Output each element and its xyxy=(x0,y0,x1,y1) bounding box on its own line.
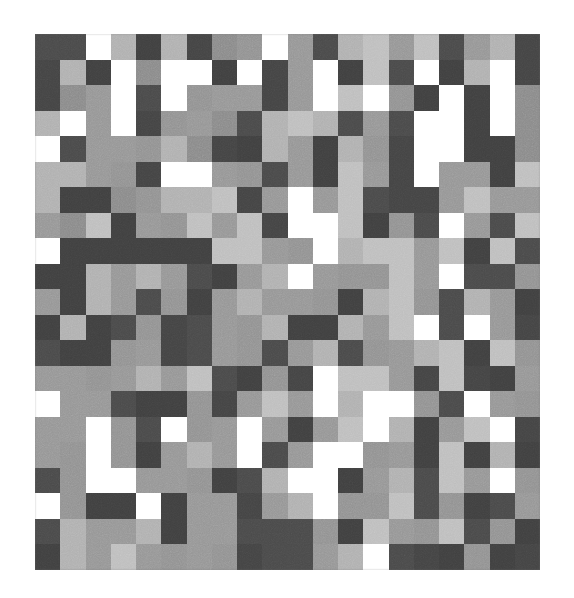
heatmap-cell xyxy=(313,162,338,188)
heatmap-cell xyxy=(187,417,212,443)
heatmap-cell xyxy=(35,264,60,290)
heatmap-cell xyxy=(237,417,262,443)
heatmap-cell xyxy=(389,136,414,162)
heatmap-cell xyxy=(187,34,212,60)
heatmap-cell xyxy=(288,315,313,341)
heatmap-cell xyxy=(111,136,136,162)
heatmap-cell xyxy=(414,315,439,341)
heatmap-cell xyxy=(363,468,388,494)
heatmap-cell xyxy=(212,315,237,341)
heatmap-cell xyxy=(389,162,414,188)
heatmap-cell xyxy=(86,85,111,111)
heatmap-cell xyxy=(313,238,338,264)
heatmap-cell xyxy=(212,519,237,545)
heatmap-cell xyxy=(439,85,464,111)
heatmap-cell xyxy=(136,136,161,162)
heatmap-cell xyxy=(212,136,237,162)
heatmap-cell xyxy=(212,162,237,188)
heatmap-cell xyxy=(313,366,338,392)
heatmap-cell xyxy=(288,162,313,188)
heatmap-cell xyxy=(35,34,60,60)
heatmap-cell xyxy=(187,238,212,264)
heatmap-cell xyxy=(515,519,540,545)
heatmap-cell xyxy=(111,238,136,264)
heatmap-cell xyxy=(111,366,136,392)
heatmap-cell xyxy=(464,544,489,570)
heatmap-cell xyxy=(237,391,262,417)
heatmap-cell xyxy=(212,417,237,443)
heatmap-cell xyxy=(414,238,439,264)
heatmap-cell xyxy=(187,493,212,519)
heatmap-cell xyxy=(389,85,414,111)
heatmap-cell xyxy=(313,187,338,213)
heatmap-cell xyxy=(187,468,212,494)
heatmap-cell xyxy=(490,213,515,239)
heatmap-cell xyxy=(490,187,515,213)
heatmap-cell xyxy=(35,187,60,213)
heatmap-cell xyxy=(111,34,136,60)
heatmap-cell xyxy=(60,213,85,239)
heatmap-cell xyxy=(515,391,540,417)
heatmap-cell xyxy=(237,493,262,519)
heatmap-cell xyxy=(237,238,262,264)
heatmap-cell xyxy=(363,366,388,392)
heatmap-cell xyxy=(60,391,85,417)
heatmap-cell xyxy=(187,60,212,86)
heatmap-cell xyxy=(237,60,262,86)
heatmap-cell xyxy=(187,85,212,111)
heatmap-cell xyxy=(187,264,212,290)
heatmap-cell xyxy=(111,519,136,545)
heatmap-cell xyxy=(237,34,262,60)
heatmap-cell xyxy=(363,213,388,239)
heatmap-cell xyxy=(288,187,313,213)
heatmap-cell xyxy=(262,238,287,264)
heatmap-cell xyxy=(490,417,515,443)
heatmap-cell xyxy=(60,468,85,494)
heatmap-cell xyxy=(60,187,85,213)
heatmap-cell xyxy=(86,366,111,392)
heatmap-cell xyxy=(161,315,186,341)
heatmap-cell xyxy=(60,238,85,264)
heatmap-cell xyxy=(237,162,262,188)
heatmap-cell xyxy=(111,493,136,519)
heatmap-cell xyxy=(464,468,489,494)
heatmap-cell xyxy=(111,340,136,366)
heatmap-cell xyxy=(313,493,338,519)
heatmap-cell xyxy=(515,315,540,341)
heatmap-cell xyxy=(86,213,111,239)
heatmap-cell xyxy=(363,340,388,366)
heatmap-cell xyxy=(414,493,439,519)
heatmap-cell xyxy=(187,289,212,315)
heatmap-cell xyxy=(515,162,540,188)
heatmap-cell xyxy=(338,238,363,264)
heatmap-cell xyxy=(136,264,161,290)
heatmap-cell xyxy=(414,34,439,60)
heatmap-cell xyxy=(490,111,515,137)
heatmap-cell xyxy=(35,442,60,468)
heatmap-cell xyxy=(111,442,136,468)
heatmap-cell xyxy=(237,187,262,213)
heatmap-cell xyxy=(338,468,363,494)
heatmap-cell xyxy=(313,340,338,366)
heatmap-cell xyxy=(237,111,262,137)
heatmap-cell xyxy=(288,366,313,392)
heatmap-cell xyxy=(161,238,186,264)
heatmap-cell xyxy=(515,366,540,392)
heatmap-cell xyxy=(161,264,186,290)
heatmap-cell xyxy=(515,34,540,60)
heatmap-cell xyxy=(515,264,540,290)
heatmap-cell xyxy=(439,366,464,392)
heatmap-cell xyxy=(86,162,111,188)
heatmap-cell xyxy=(136,34,161,60)
heatmap-cell xyxy=(187,544,212,570)
heatmap-cell xyxy=(35,213,60,239)
heatmap-cell xyxy=(288,34,313,60)
heatmap-cell xyxy=(338,111,363,137)
heatmap-cell xyxy=(262,187,287,213)
heatmap-cell xyxy=(187,340,212,366)
heatmap-cell xyxy=(161,213,186,239)
heatmap-cell xyxy=(161,60,186,86)
heatmap-cell xyxy=(60,544,85,570)
heatmap-cell xyxy=(212,468,237,494)
heatmap-cell xyxy=(111,544,136,570)
